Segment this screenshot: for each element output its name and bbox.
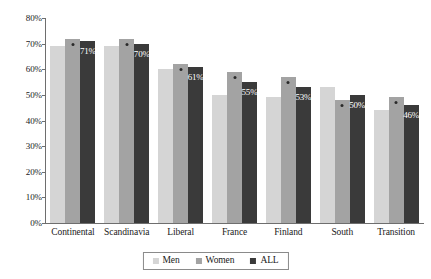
y-axis-tick-label: 80%	[2, 14, 42, 23]
bar-marker-dot-icon	[71, 43, 74, 46]
bar-men	[104, 46, 119, 223]
bar-women	[335, 100, 350, 223]
y-axis-tick-mark	[42, 121, 45, 122]
bar-marker-dot-icon	[395, 101, 398, 104]
y-axis-tick-label: 70%	[2, 39, 42, 48]
x-axis-category-label: Liberal	[154, 226, 208, 238]
x-axis-category-label: Scandinavia	[100, 226, 154, 238]
x-axis-category-label: France	[208, 226, 262, 238]
bar-group: 61%	[154, 18, 208, 223]
bar-marker-dot-icon	[287, 81, 290, 84]
y-axis-tick-mark	[42, 172, 45, 173]
bar-value-label: 71%	[80, 46, 96, 56]
legend-item-all[interactable]: ALL	[250, 255, 278, 266]
bar-women	[281, 77, 296, 223]
bar-group: 53%	[261, 18, 315, 223]
x-axis-category-label: South	[315, 226, 369, 238]
legend-label: Men	[162, 255, 179, 266]
y-axis-tick-label: 50%	[2, 90, 42, 99]
bar-men	[158, 69, 173, 223]
bar-all: 61%	[188, 67, 203, 223]
bar-value-label: 61%	[188, 72, 204, 82]
x-axis-category-label: Continental	[46, 226, 100, 238]
bar-group: 46%	[369, 18, 423, 223]
bar-women	[389, 97, 404, 223]
bar-women	[65, 39, 80, 224]
bar-group: 70%	[100, 18, 154, 223]
y-axis-tick-mark	[42, 18, 45, 19]
bar-all: 50%	[350, 95, 365, 223]
bar-group: 71%	[46, 18, 100, 223]
bar-value-label: 53%	[295, 92, 311, 102]
y-axis-tick-mark	[42, 197, 45, 198]
bar-value-label: 50%	[349, 100, 365, 110]
bar-men	[50, 46, 65, 223]
chart-legend: MenWomenALL	[142, 252, 288, 270]
x-axis-category-label: Transition	[369, 226, 423, 238]
y-axis-tick-mark	[42, 223, 45, 224]
bar-all: 46%	[404, 105, 419, 223]
legend-label: Women	[206, 255, 235, 266]
y-axis-tick-label: 20%	[2, 167, 42, 176]
y-axis-tick-mark	[42, 69, 45, 70]
bar-value-label: 46%	[403, 110, 419, 120]
legend-label: ALL	[260, 255, 278, 266]
y-axis-tick-label: 40%	[2, 116, 42, 125]
bar-value-label: 55%	[242, 87, 258, 97]
bar-chart: 80%70%60%50%40%30%20%10%0% 71%70%61%55%5…	[0, 0, 431, 279]
bar-marker-dot-icon	[125, 43, 128, 46]
bar-all: 70%	[134, 44, 149, 223]
bar-value-label: 70%	[134, 49, 150, 59]
bar-marker-dot-icon	[179, 68, 182, 71]
legend-item-men[interactable]: Men	[152, 255, 179, 266]
y-axis-ticks: 80%70%60%50%40%30%20%10%0%	[0, 18, 42, 223]
bar-men	[374, 110, 389, 223]
y-axis-tick-label: 0%	[2, 219, 42, 228]
bar-men	[320, 87, 335, 223]
legend-item-women[interactable]: Women	[196, 255, 235, 266]
legend-swatch-icon	[196, 258, 202, 264]
bar-marker-dot-icon	[233, 76, 236, 79]
y-axis-tick-label: 10%	[2, 193, 42, 202]
bar-all: 55%	[242, 82, 257, 223]
bar-women	[173, 64, 188, 223]
bar-group: 55%	[208, 18, 262, 223]
bar-marker-dot-icon	[341, 104, 344, 107]
bar-group: 50%	[315, 18, 369, 223]
y-axis-tick-label: 60%	[2, 65, 42, 74]
bar-men	[212, 95, 227, 223]
y-axis-tick-mark	[42, 44, 45, 45]
x-axis-line	[45, 223, 424, 224]
bar-women	[227, 72, 242, 223]
bar-men	[266, 97, 281, 223]
legend-swatch-icon	[152, 258, 158, 264]
bar-women	[119, 39, 134, 224]
x-axis-labels: ContinentalScandinaviaLiberalFranceFinla…	[46, 226, 423, 238]
x-axis-category-label: Finland	[261, 226, 315, 238]
bar-groups: 71%70%61%55%53%50%46%	[46, 18, 423, 223]
y-axis-tick-label: 30%	[2, 142, 42, 151]
legend-swatch-icon	[250, 258, 256, 264]
bar-all: 53%	[296, 87, 311, 223]
y-axis-tick-mark	[42, 95, 45, 96]
bar-all: 71%	[80, 41, 95, 223]
y-axis-tick-mark	[42, 146, 45, 147]
